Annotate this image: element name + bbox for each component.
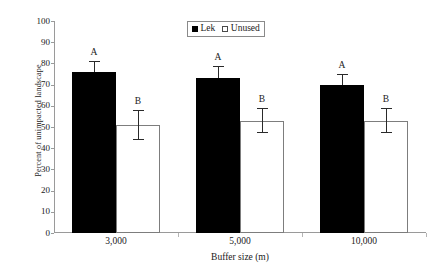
bar-chart-figure: Percent of unimpacted landscape 01020304…	[0, 0, 436, 280]
bar-lek[interactable]	[72, 72, 116, 233]
legend-entry[interactable]: Lek	[192, 23, 215, 34]
legend-label: Unused	[231, 23, 260, 34]
y-axis-tick-label: 100	[22, 17, 50, 26]
bar-group: AB	[302, 21, 426, 233]
error-bar-stem	[342, 74, 343, 85]
y-axis-tick-label: 50	[22, 123, 50, 132]
error-bar-stem	[218, 66, 219, 79]
y-axis-tick-label: 0	[22, 229, 50, 238]
legend-label: Lek	[201, 23, 216, 34]
y-axis-tick-label: 20	[22, 186, 50, 195]
chart-legend: LekUnused	[187, 21, 265, 37]
y-axis-tick-label: 60	[22, 101, 50, 110]
error-bar	[257, 108, 268, 133]
bar-group: AB	[54, 21, 178, 233]
plot-area: ABABAB	[54, 21, 426, 233]
legend-entry[interactable]: Unused	[222, 23, 260, 34]
x-axis-tick-label: 3,000	[81, 236, 151, 247]
error-bar-cap-bottom	[381, 132, 392, 133]
bar-lek[interactable]	[196, 78, 240, 233]
x-axis-tick-label: 5,000	[205, 236, 275, 247]
y-axis-tick-label: 10	[22, 207, 50, 216]
bar-unused[interactable]	[116, 125, 160, 233]
error-bar	[381, 108, 392, 133]
y-axis-tick-label: 40	[22, 144, 50, 153]
x-axis-tick-mark	[426, 233, 427, 237]
error-bar-cap-top	[381, 108, 392, 109]
y-axis-tick-label: 70	[22, 80, 50, 89]
y-axis-tick-label: 90	[22, 38, 50, 47]
x-axis-tick-label: 10,000	[329, 236, 399, 247]
error-bar	[89, 61, 100, 72]
error-bar-stem	[94, 61, 95, 72]
significance-letter: B	[375, 94, 397, 104]
error-bar-cap-top	[337, 74, 348, 75]
y-axis-tick-label: 30	[22, 165, 50, 174]
error-bar	[337, 74, 348, 85]
y-axis-tick-label: 80	[22, 59, 50, 68]
bar-lek[interactable]	[320, 85, 364, 233]
significance-letter: B	[127, 96, 149, 106]
significance-letter: B	[251, 94, 273, 104]
y-axis-tick-mark	[51, 233, 54, 234]
error-bar	[133, 110, 144, 140]
y-axis-tick-labels: 0102030405060708090100	[22, 0, 50, 280]
error-bar-cap-bottom	[133, 139, 144, 140]
x-axis-title: Buffer size (m)	[54, 252, 426, 262]
error-bar-cap-top	[257, 108, 268, 109]
error-bar-cap-top	[133, 110, 144, 111]
error-bar-stem	[138, 110, 139, 140]
error-bar-cap-bottom	[257, 132, 268, 133]
error-bar	[213, 66, 224, 79]
bar-unused[interactable]	[364, 121, 408, 233]
significance-letter: A	[83, 47, 105, 57]
x-axis-tick-labels: 3,0005,00010,000	[54, 236, 426, 250]
error-bar-cap-top	[89, 61, 100, 62]
open-square-icon	[222, 26, 228, 32]
significance-letter: A	[331, 60, 353, 70]
bar-unused[interactable]	[240, 121, 284, 233]
error-bar-stem	[386, 108, 387, 133]
bar-group: AB	[178, 21, 302, 233]
error-bar-cap-top	[213, 66, 224, 67]
significance-letter: A	[207, 52, 229, 62]
error-bar-stem	[262, 108, 263, 133]
filled-square-icon	[192, 26, 198, 32]
